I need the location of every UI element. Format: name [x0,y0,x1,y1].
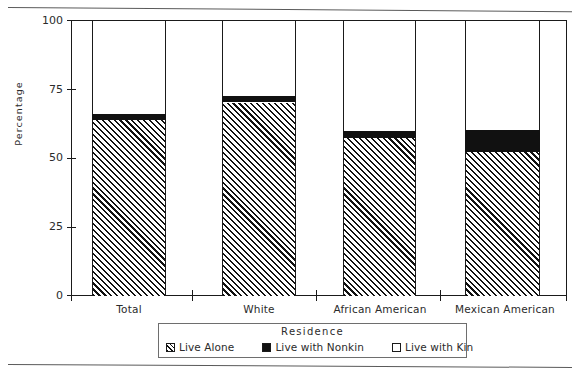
bar-segment-live-with-nonkin-white [222,96,296,103]
bar-segment-live-alone-total [92,120,166,296]
bar-segment-live-alone-african-american [343,138,416,296]
x-tick-mark-2 [316,290,317,301]
bar-segment-live-alone-mexican-american [465,152,540,296]
legend-label-live-with-nonkin: Live with Nonkin [275,341,364,353]
y-tick-label-50: 50 [29,152,63,163]
bar-segment-live-with-nonkin-mexican-american [465,130,540,152]
legend-item-live-with-kin[interactable]: Live with Kin [392,341,473,353]
legend-box: Residence Live Alone Live with Nonkin Li… [158,323,467,358]
legend-item-live-alone[interactable]: Live Alone [166,341,234,353]
legend-title: Residence [159,326,466,337]
bar-group-african-american [343,0,416,373]
bar-group-white [222,0,296,373]
solid-black-swatch-icon [262,343,271,352]
x-category-label-mexican-american: Mexican American [449,303,561,315]
x-tick-mark-0 [71,290,72,301]
legend-items: Live Alone Live with Nonkin Live with Ki… [159,341,466,353]
y-tick-mark-50 [67,158,76,159]
bar-group-mexican-american [465,0,540,373]
legend-label-live-with-kin: Live with Kin [405,341,473,353]
y-tick-mark-25 [67,227,76,228]
y-tick-label-75: 75 [29,84,63,95]
y-tick-mark-75 [67,89,76,90]
bar-segment-live-with-nonkin-african-american [343,131,416,138]
x-category-label-total: Total [92,303,166,315]
x-category-label-african-american: African American [325,303,435,315]
y-tick-label-0: 0 [29,290,63,301]
bar-group-total [92,0,166,373]
stacked-bar-chart-figure: Percentage 100 75 50 25 0 [0,0,579,373]
plot-frame-right [566,20,567,296]
legend-item-live-with-nonkin[interactable]: Live with Nonkin [262,341,364,353]
y-tick-mark-100 [67,20,76,21]
legend-label-live-alone: Live Alone [179,341,234,353]
white-swatch-icon [392,343,401,352]
x-tick-mark-4 [566,290,567,301]
x-tick-mark-1 [192,290,193,301]
bar-segment-live-with-nonkin-total [92,114,166,121]
x-tick-mark-3 [440,290,441,301]
bar-segment-live-alone-white [222,103,296,297]
x-category-label-white: White [215,303,303,315]
hatched-swatch-icon [166,343,175,352]
y-axis-title: Percentage [13,54,24,174]
y-tick-label-100: 100 [29,15,63,26]
y-tick-label-25: 25 [29,221,63,232]
